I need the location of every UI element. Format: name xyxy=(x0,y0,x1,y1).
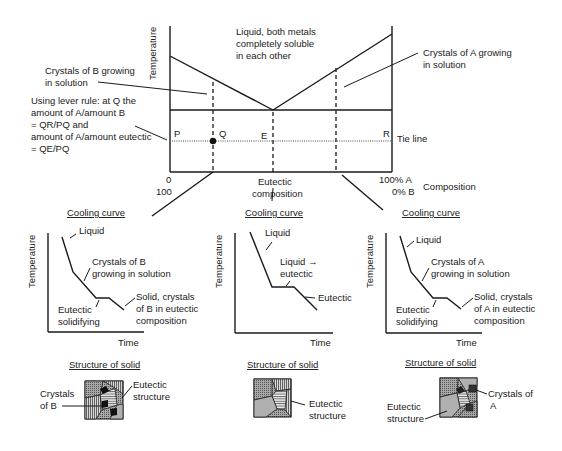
crystals-b-leader xyxy=(98,82,207,94)
x-right-top-label: 100% A xyxy=(379,174,412,185)
cooling-curve-b-solid-label-1: Solid, crystals xyxy=(136,291,195,302)
cooling-curve-b-x-label: Time xyxy=(118,337,139,348)
structure-a-crystals-label-1: Crystals of xyxy=(488,388,533,399)
structure-a-title: Structure of solid xyxy=(405,357,476,368)
cooling-curve-a-solid-label-2: of A in eutectic xyxy=(474,303,536,314)
cooling-curve-eutectic-liquid-leader xyxy=(266,242,272,250)
cooling-curve-a-growing-label-2: growing in solution xyxy=(431,268,510,279)
cooling-curve-b-solid-label-3: composition xyxy=(136,315,187,326)
x-left-top-label: 0 xyxy=(166,174,171,185)
main-phase-diagram: Temperature Liquid, both metals complete… xyxy=(31,26,512,216)
cooling-curve-eutectic-eutectic-leader xyxy=(305,297,315,298)
tie-line-label: Tie line xyxy=(397,133,427,144)
crystals-b-label-1: Crystals of B growing xyxy=(45,65,135,76)
structure-b: Structure of solid Crystals of B Eutecti… xyxy=(40,359,170,419)
crystal-a xyxy=(466,404,473,411)
cooling-curve-a-liquid-label: Liquid xyxy=(416,234,441,245)
cooling-curve-b-solid-leader xyxy=(125,298,135,306)
main-y-axis-label: Temperature xyxy=(147,27,158,80)
cooling-curve-a-liquid-leader xyxy=(407,241,414,247)
cooling-curve-a-growing-label-1: Crystals of A xyxy=(431,256,485,267)
cooling-curve-eutectic-transition-label-1: Liquid → xyxy=(280,256,318,267)
main-x-axis-label: Composition xyxy=(423,181,476,192)
phase-diagram: Temperature Liquid, both metals complete… xyxy=(0,0,562,451)
cooling-curve-b: Cooling curve Temperature Time Liquid Cr… xyxy=(26,207,199,348)
point-q-label: Q xyxy=(219,128,226,139)
cooling-curve-b-y-label: Temperature xyxy=(26,235,37,288)
crystal-b xyxy=(110,408,117,416)
lever-rule-label-1: Using lever rule: at Q the xyxy=(31,95,136,106)
connector-right xyxy=(342,175,383,210)
lever-rule-label-2: amount of A/amount B xyxy=(31,107,125,118)
structure-eutectic-label-2: structure xyxy=(309,410,346,421)
cooling-curve-a-title: Cooling curve xyxy=(402,207,460,218)
eutectic-composition-label-2: composition xyxy=(252,188,303,199)
cooling-curve-b-solid-label-2: of B in eutectic xyxy=(136,303,199,314)
cooling-curve-b-growing-label-1: Crystals of B xyxy=(92,256,146,267)
structure-eutectic-micrograph xyxy=(254,379,291,417)
cooling-curve-a-solid-label-1: Solid, crystals xyxy=(474,291,533,302)
structure-a-crystals-label-2: A xyxy=(490,400,497,411)
cooling-curve-eutectic-transition-leader xyxy=(286,281,290,286)
cooling-curve-b-solidifying-label-2: solidifying xyxy=(58,316,100,327)
crystals-a-label-1: Crystals of A growing xyxy=(423,47,512,58)
cooling-curve-eutectic-transition-label-2: eutectic xyxy=(280,268,313,279)
structure-b-micrograph xyxy=(85,381,123,419)
structure-a-eutectic-label-2: structure xyxy=(387,413,424,424)
liquid-region-label-2: completely soluble xyxy=(236,38,314,49)
liquid-region-label-3: in each other xyxy=(236,50,291,61)
structure-a-eutectic-label-1: Eutectic xyxy=(387,401,421,412)
point-e-label: E xyxy=(261,130,267,141)
cooling-curve-eutectic: Cooling curve Temperature Time Liquid Li… xyxy=(213,207,352,348)
crystals-a-label-2: in solution xyxy=(423,59,466,70)
cooling-curve-a-solidifying-leader xyxy=(433,300,436,307)
structure-a: Structure of solid Crystals of A Eutecti… xyxy=(387,357,533,424)
cooling-curve-b-liquid-leader xyxy=(70,234,76,238)
structure-eutectic-label-1: Eutectic xyxy=(309,398,343,409)
cooling-curve-eutectic-x-label: Time xyxy=(310,337,331,348)
structure-b-eutectic-label-1: Eutectic xyxy=(133,379,167,390)
liquidus-b-line xyxy=(170,56,273,110)
cooling-curve-b-growing-leader xyxy=(84,268,90,281)
lever-rule-label-3: = QR/PQ and xyxy=(31,119,88,130)
cooling-curve-a-growing-leader xyxy=(422,268,429,281)
cooling-curve-a-y-label: Temperature xyxy=(364,235,375,288)
structure-eutectic: Structure of solid Eutectic structure xyxy=(247,359,346,421)
crystals-b-label-2: in solution xyxy=(45,77,88,88)
cooling-curve-b-solidifying-leader xyxy=(96,300,99,307)
lever-rule-label-5: = QE/PQ xyxy=(31,143,69,154)
cooling-curve-a-solidifying-label-2: solidifying xyxy=(396,316,438,327)
structure-eutectic-title: Structure of solid xyxy=(247,359,318,370)
structure-b-crystals-label-1: Crystals xyxy=(40,388,75,399)
point-p-label: P xyxy=(174,128,180,139)
liquid-region-label-1: Liquid, both metals xyxy=(236,26,316,37)
cooling-curve-b-liquid-label: Liquid xyxy=(79,225,104,236)
eutectic-composition-label-1: Eutectic xyxy=(258,176,292,187)
crystal-b xyxy=(102,400,108,408)
cooling-curve-eutectic-y-label: Temperature xyxy=(213,235,224,288)
structure-b-crystals-label-2: of B xyxy=(40,400,57,411)
lever-rule-label-4: amount of A/amount eutectic xyxy=(31,131,152,142)
cooling-curve-a-solid-leader xyxy=(462,298,473,307)
structure-b-eutectic-label-2: structure xyxy=(133,391,170,402)
cooling-curve-a-x-label: Time xyxy=(456,337,477,348)
cooling-curve-eutectic-eutectic-label: Eutectic xyxy=(318,292,352,303)
crystal-a xyxy=(469,385,476,392)
cooling-curve-eutectic-liquid-label: Liquid xyxy=(265,227,290,238)
structure-a-crystals-leader xyxy=(476,390,487,394)
cooling-curve-a: Cooling curve Temperature Time Liquid Cr… xyxy=(364,207,536,348)
cooling-curve-b-title: Cooling curve xyxy=(67,207,125,218)
point-q-marker xyxy=(210,138,216,144)
structure-b-title: Structure of solid xyxy=(69,359,140,370)
x-right-bottom-label: 0% B xyxy=(392,186,415,197)
structure-eutectic-leader xyxy=(291,401,305,405)
cooling-curve-b-solidifying-label-1: Eutectic xyxy=(58,304,92,315)
cooling-curve-a-solid-label-3: composition xyxy=(474,315,525,326)
cooling-curve-eutectic-title: Cooling curve xyxy=(245,207,303,218)
x-left-bottom-label: 100 xyxy=(156,186,172,197)
cooling-curve-b-growing-label-2: growing in solution xyxy=(92,268,171,279)
point-r-label: R xyxy=(383,128,390,139)
cooling-curve-a-solidifying-label-1: Eutectic xyxy=(396,304,430,315)
